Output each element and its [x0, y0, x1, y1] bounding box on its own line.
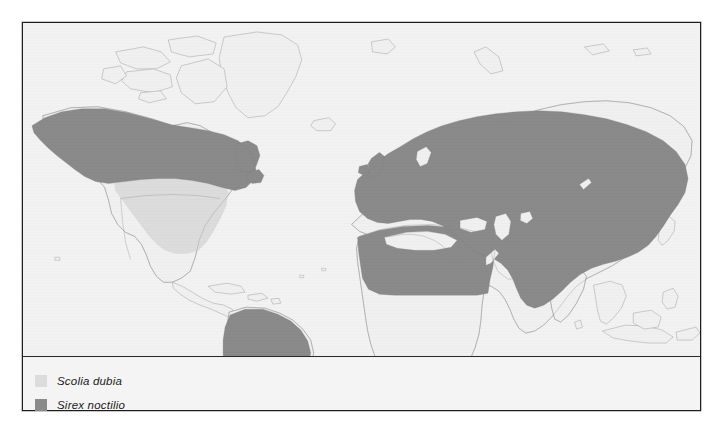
legend-label-scolia-dubia: Scolia dubia	[57, 375, 122, 387]
legend-swatch-scolia-dubia	[35, 375, 47, 387]
caribbean-islet	[271, 298, 281, 304]
legend: Scolia dubia Sirex noctilio	[23, 358, 700, 410]
map-panel	[23, 23, 700, 357]
legend-label-sirex-noctilio: Sirex noctilio	[57, 399, 125, 411]
figure-page: Scolia dubia Sirex noctilio	[0, 0, 723, 431]
legend-item-scolia-dubia: Scolia dubia	[35, 370, 700, 392]
world-map	[23, 23, 700, 356]
legend-swatch-sirex-noctilio	[35, 399, 47, 411]
legend-item-sirex-noctilio: Sirex noctilio	[35, 394, 700, 416]
figure-frame: Scolia dubia Sirex noctilio	[22, 22, 701, 411]
